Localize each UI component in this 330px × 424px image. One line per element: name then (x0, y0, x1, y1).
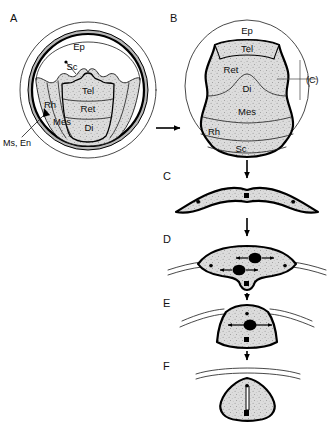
panel-a-letter: A (10, 12, 18, 24)
panel-f-lumen-slit (246, 386, 249, 410)
panel-b-label-ep: Ep (241, 25, 253, 36)
panel-e-symbol-disc (244, 320, 257, 331)
panel-a-label-mes: Mes (53, 116, 71, 127)
embryology-figure: A Ep Sc Tel Ret Di Mes Rh Ms, En (0, 0, 330, 424)
panel-a-label-rh: Rh (44, 99, 56, 110)
panel-b-label-section-c: (C) (306, 75, 319, 85)
panel-b-label-ret: Ret (224, 64, 239, 75)
panel-e-letter: E (163, 297, 170, 309)
panel-a-label-ep: Ep (73, 41, 85, 52)
panel-d-symbol-disc-upper (249, 253, 262, 263)
panel-a-label-tel: Tel (82, 85, 94, 96)
panel-c-midline-marker (244, 193, 249, 198)
panel-a-label-ms-en: Ms, En (3, 138, 31, 148)
panel-b-letter: B (170, 12, 177, 24)
panel-d-symbol-disc-lower (233, 265, 246, 275)
panel-f-ventral-marker (244, 410, 249, 416)
panel-d-ventral-marker (244, 281, 249, 286)
panel-b-label-rh: Rh (208, 126, 220, 137)
panel-b-neural-plate (201, 40, 293, 157)
panel-a-label-sc: Sc (66, 61, 77, 72)
panel-b-label-di: Di (243, 83, 252, 94)
figure-root: A Ep Sc Tel Ret Di Mes Rh Ms, En (0, 0, 330, 424)
panel-e-ventral-marker (244, 337, 249, 342)
panel-a-label-ret: Ret (81, 103, 96, 114)
panel-c-letter: C (163, 170, 171, 182)
panel-b-label-mes: Mes (238, 106, 256, 117)
panel-a-label-di: Di (85, 122, 94, 133)
panel-b-label-tel: Tel (241, 43, 253, 54)
panel-b-label-sc: Sc (235, 143, 246, 154)
panel-d-letter: D (163, 233, 171, 245)
panel-f-letter: F (163, 360, 170, 372)
